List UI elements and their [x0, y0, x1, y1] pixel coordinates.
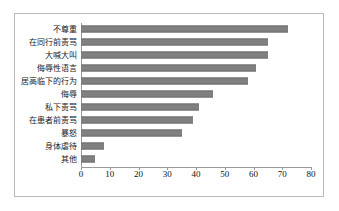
bar: [81, 52, 268, 59]
category-label: 其他: [61, 154, 77, 163]
category-label: 在患者前责骂: [29, 115, 77, 124]
x-tick-label: 50: [220, 169, 229, 180]
bar-row: 侮辱: [81, 88, 311, 101]
bar: [81, 39, 268, 46]
x-tick-label: 80: [307, 169, 316, 180]
category-label: 大喊大叫: [45, 51, 77, 60]
category-label: 暴怒: [61, 128, 77, 137]
x-tick-label: 20: [134, 169, 143, 180]
bar: [81, 90, 213, 97]
x-tick-label: 0: [79, 169, 84, 180]
bar-row: 不尊重: [81, 23, 311, 36]
x-tick-label: 40: [192, 169, 201, 180]
bar-row: 在患者前责骂: [81, 113, 311, 126]
category-label: 侮辱性语言: [37, 64, 77, 73]
bar: [81, 78, 248, 85]
bar-row: 侮辱性语言: [81, 62, 311, 75]
bar-row: 暴怒: [81, 126, 311, 139]
bar-row: 居高临下的行为: [81, 75, 311, 88]
bar-row: 大喊大叫: [81, 49, 311, 62]
bar: [81, 116, 193, 123]
bar: [81, 155, 95, 162]
category-label: 不尊重: [53, 25, 77, 34]
category-label: 私下责骂: [45, 102, 77, 111]
bar: [81, 26, 288, 33]
x-tick-label: 30: [163, 169, 172, 180]
x-tick-label: 70: [278, 169, 287, 180]
plot-area: 不尊重在同行前责骂大喊大叫侮辱性语言居高临下的行为侮辱私下责骂在患者前责骂暴怒身…: [15, 14, 323, 196]
bar: [81, 142, 104, 149]
bar-row: 身体虐待: [81, 139, 311, 152]
x-tick-label: 10: [105, 169, 114, 180]
bar-row: 在同行前责骂: [81, 36, 311, 49]
bar: [81, 65, 256, 72]
category-label: 身体虐待: [45, 141, 77, 150]
category-label: 侮辱: [61, 89, 77, 98]
chart-figure: 不尊重在同行前责骂大喊大叫侮辱性语言居高临下的行为侮辱私下责骂在患者前责骂暴怒身…: [14, 13, 324, 197]
x-tick-label: 60: [249, 169, 258, 180]
category-label: 在同行前责骂: [29, 38, 77, 47]
category-label: 居高临下的行为: [21, 77, 77, 86]
bars-container: 不尊重在同行前责骂大喊大叫侮辱性语言居高临下的行为侮辱私下责骂在患者前责骂暴怒身…: [81, 23, 311, 165]
bar: [81, 103, 199, 110]
bar-row: 其他: [81, 152, 311, 165]
bar-row: 私下责骂: [81, 100, 311, 113]
bar: [81, 129, 182, 136]
